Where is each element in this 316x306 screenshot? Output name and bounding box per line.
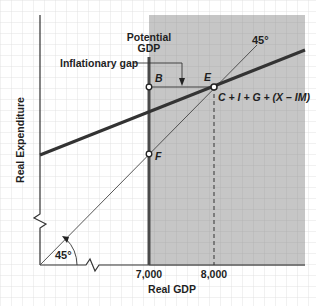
diagram-canvas: Potential GDP Inflationary gap 45° B E F… <box>0 0 316 306</box>
potential-label-line2: GDP <box>138 42 161 54</box>
y-axis-label: Real Expenditure <box>14 97 26 183</box>
x-axis-label: Real GDP <box>148 283 196 295</box>
point-f-label: F <box>155 150 162 162</box>
point-b-label: B <box>155 72 163 84</box>
angle-label: 45° <box>55 249 72 261</box>
x-tick-8000: 8,000 <box>201 268 227 280</box>
point-e <box>211 84 217 90</box>
expenditure-line-label: C + I + G + (X – IM) <box>218 91 310 103</box>
shaded-region <box>149 15 305 266</box>
x-tick-7000: 7,000 <box>136 268 162 280</box>
point-f <box>146 151 152 157</box>
point-b <box>146 84 152 90</box>
forty-five-label: 45° <box>252 34 269 46</box>
inflationary-gap-label: Inflationary gap <box>60 57 138 69</box>
point-e-label: E <box>204 71 212 83</box>
